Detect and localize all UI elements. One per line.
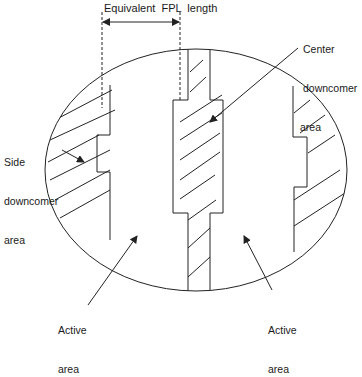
active-area-left-label: Active area <box>58 298 87 377</box>
fpl-dimension <box>102 12 180 108</box>
center-downcomer-label: Center downcomer area <box>303 17 357 147</box>
center-downcomer-line1: Center <box>303 43 357 56</box>
side-downcomer-line1: Side <box>4 156 58 169</box>
active-left-line2: area <box>58 363 87 376</box>
side-downcomer-line3: area <box>4 234 58 247</box>
center-downcomer-line2: downcomer <box>303 82 357 95</box>
center-downcomer-leader <box>210 48 298 122</box>
side-downcomer-line2: downcomer <box>4 195 58 208</box>
center-downcomer-line3: area <box>300 121 357 134</box>
active-left-leader <box>88 236 137 305</box>
active-area-right-label: Active area <box>268 298 297 377</box>
tray-outline <box>45 49 347 291</box>
active-left-line1: Active <box>58 324 87 337</box>
fpl-length-label: Equivalent FPL length <box>104 2 217 15</box>
active-right-line2: area <box>268 363 297 376</box>
active-right-line1: Active <box>268 324 297 337</box>
side-downcomer-leader <box>62 150 84 162</box>
active-right-leader <box>244 236 272 290</box>
side-downcomer-label: Side downcomer area <box>4 130 58 260</box>
